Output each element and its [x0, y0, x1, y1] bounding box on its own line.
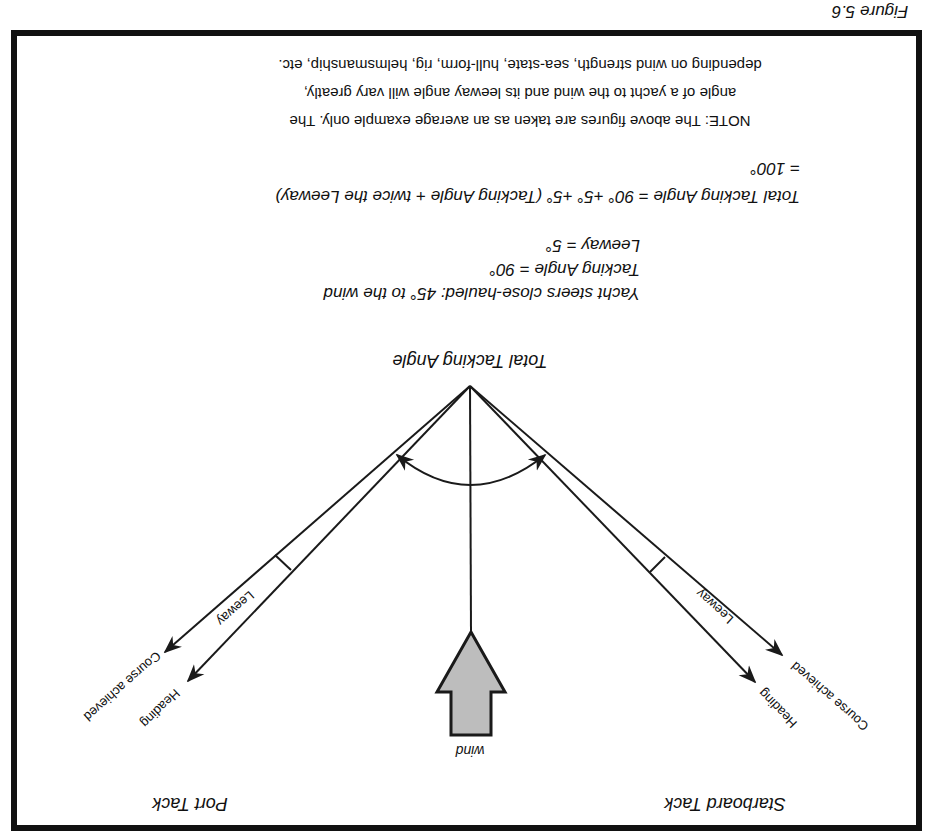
port-tack-label: Port Tack	[151, 794, 227, 814]
starboard-heading-arrow	[470, 386, 755, 682]
port-course-achieved-arrow	[165, 386, 470, 652]
wind-arrow-icon	[437, 632, 505, 735]
starboard-course-achieved-arrow	[470, 386, 782, 655]
starboard-course-achieved-label: Course achieved	[788, 659, 871, 734]
explanation-text: Leeway = 5° Tacking Angle = 90° Yacht st…	[323, 236, 640, 303]
note-text: depending on wind strength, sea-state, h…	[278, 57, 762, 130]
port-leeway-label: Leeway	[213, 588, 257, 629]
port-heading-label: Heading	[138, 686, 183, 730]
port-heading-arrow	[188, 386, 470, 681]
starboard-leeway-label: Leeway	[693, 585, 737, 626]
formula-line-1: Total Tacking Angle = 90° +5° +5° (Tacki…	[275, 187, 800, 206]
wind-direction-line	[470, 386, 471, 632]
formula-text: = 100° Total Tacking Angle = 90° +5° +5°…	[275, 159, 800, 206]
close-hauled-text: Yacht steers close-hauled: 45° to the wi…	[323, 284, 640, 303]
port-leeway-tick	[275, 555, 291, 570]
note-line-3: depending on wind strength, sea-state, h…	[278, 57, 762, 74]
formula-line-2: = 100°	[750, 159, 800, 178]
tacking-angle-diagram: Figure 5.6 depending on wind strength, s…	[0, 0, 928, 839]
starboard-leeway-tick	[650, 557, 665, 572]
starboard-tack-label: Starboard Tack	[663, 794, 785, 814]
note-line-2: angle of a yacht to the wind and its lee…	[304, 85, 736, 102]
leeway-value: Leeway = 5°	[546, 236, 640, 255]
starboard-heading-label: Heading	[755, 686, 799, 731]
tacking-angle-value: Tacking Angle = 90°	[489, 260, 640, 279]
wind-label: wind	[454, 743, 484, 759]
note-line-1: NOTE: The above figures are taken as an …	[289, 113, 750, 130]
total-tacking-angle-label: Total Tacking Angle	[392, 351, 547, 371]
figure-label: Figure 5.6	[831, 2, 908, 21]
